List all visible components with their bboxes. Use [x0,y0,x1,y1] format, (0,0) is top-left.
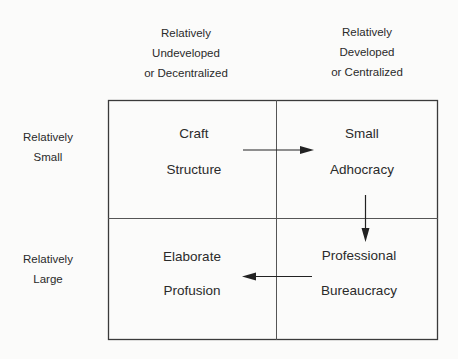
column-header-line: Undeveloped [116,43,256,63]
cell-line: Profusion [122,283,262,298]
row-header-line: Large [8,269,88,289]
cell-line: Professional [289,248,429,283]
cell-line: Small [292,126,432,162]
column-header-line: Developed [297,42,437,62]
cell-craft-structure: Craft Structure [124,126,264,177]
cell-line: Craft [124,126,264,162]
row-header-line: Relatively [8,249,88,269]
row-header-line: Relatively [8,127,88,147]
cell-line: Elaborate [122,249,262,283]
cell-professional-bureaucracy: Professional Bureaucracy [289,248,429,298]
cell-line: Bureaucracy [289,283,429,298]
column-header-undeveloped: Relatively Undeveloped or Decentralized [116,23,256,83]
cell-line: Adhocracy [292,162,432,177]
row-header-line: Small [8,147,88,167]
cell-line: Structure [124,162,264,177]
column-header-line: Relatively [116,23,256,43]
row-header-large: Relatively Large [8,249,88,289]
column-header-line: or Centralized [297,62,437,82]
row-header-small: Relatively Small [8,127,88,167]
column-header-line: Relatively [297,22,437,42]
column-header-line: or Decentralized [116,63,256,83]
cell-small-adhocracy: Small Adhocracy [292,126,432,177]
cell-elaborate-profusion: Elaborate Profusion [122,249,262,298]
column-header-developed: Relatively Developed or Centralized [297,22,437,82]
